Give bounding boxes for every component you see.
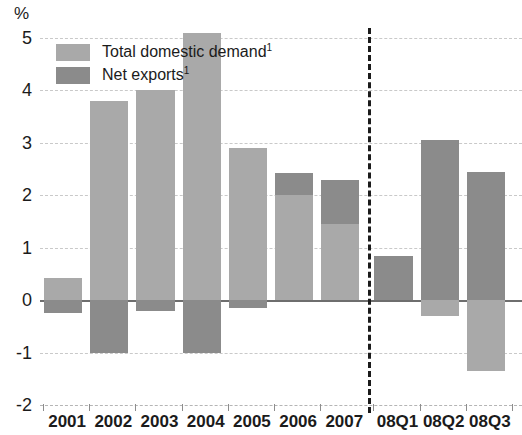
- legend-label-total-domestic-demand: Total domestic demand1: [102, 42, 272, 61]
- legend-swatch-net-exports: [56, 67, 90, 84]
- x-tick-label-2003: 2003: [141, 412, 179, 432]
- x-axis-tick: [89, 404, 90, 411]
- x-tick-label-2007: 2007: [325, 412, 363, 432]
- bar-segment-total-domestic-demand: [321, 224, 359, 300]
- bar-segment-net-exports: [44, 300, 82, 313]
- bar-segment-net-exports: [421, 140, 459, 300]
- x-axis-tick: [274, 404, 275, 411]
- bar-segment-total-domestic-demand: [44, 278, 82, 300]
- x-axis-tick: [466, 404, 467, 411]
- legend-footnote-marker: 1: [267, 42, 273, 53]
- bar-segment-net-exports: [183, 300, 221, 352]
- bar-segment-net-exports: [374, 256, 412, 301]
- x-tick-label-08Q1: 08Q1: [377, 412, 419, 432]
- legend-item-total-domestic-demand: Total domestic demand1: [56, 42, 272, 62]
- bar-segment-net-exports: [275, 173, 313, 196]
- x-axis-tick: [512, 404, 513, 411]
- x-axis-tick: [420, 404, 421, 411]
- bar-segment-total-domestic-demand: [136, 90, 174, 300]
- x-tick-label-2006: 2006: [279, 412, 317, 432]
- bar-segment-total-domestic-demand: [90, 101, 128, 300]
- bar-segment-total-domestic-demand: [467, 300, 505, 371]
- bar-segment-net-exports: [229, 300, 267, 308]
- legend-swatch-total-domestic-demand: [56, 44, 90, 61]
- bar-segment-total-domestic-demand: [421, 300, 459, 316]
- legend-footnote-marker: 1: [184, 65, 190, 76]
- x-axis-tick: [182, 404, 183, 411]
- x-tick-label-08Q3: 08Q3: [469, 412, 511, 432]
- forecast-divider-line: [368, 28, 371, 413]
- legend-item-net-exports: Net exports1: [56, 65, 272, 85]
- x-tick-label-08Q2: 08Q2: [423, 412, 465, 432]
- bar-segment-net-exports: [136, 300, 174, 310]
- x-tick-label-2002: 2002: [94, 412, 132, 432]
- x-tick-label-2004: 2004: [187, 412, 225, 432]
- chart-legend: Total domestic demand1 Net exports1: [56, 42, 272, 88]
- bar-chart: % 543210-1-2 200120022003200420052006200…: [0, 0, 522, 435]
- bar-segment-net-exports: [321, 180, 359, 225]
- bar-segment-total-domestic-demand: [275, 195, 313, 300]
- x-axis-tick: [373, 404, 374, 411]
- bar-segment-total-domestic-demand: [229, 148, 267, 300]
- x-axis-tick: [43, 404, 44, 411]
- x-axis-tick: [320, 404, 321, 411]
- bar-segment-net-exports: [467, 172, 505, 300]
- legend-label-net-exports: Net exports1: [102, 65, 189, 84]
- bar-segment-net-exports: [90, 300, 128, 352]
- x-tick-label-2001: 2001: [48, 412, 86, 432]
- x-tick-label-2005: 2005: [233, 412, 271, 432]
- x-axis-tick: [228, 404, 229, 411]
- x-axis-tick: [135, 404, 136, 411]
